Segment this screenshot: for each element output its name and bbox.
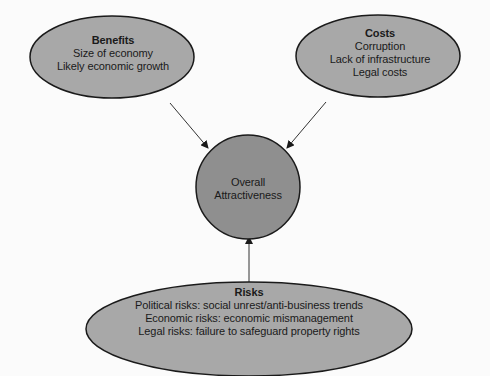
risks-label: Risks Political risks: social unrest/ant… xyxy=(135,286,363,338)
costs-title: Costs xyxy=(330,27,431,40)
risks-line: Legal risks: failure to safeguard proper… xyxy=(135,325,363,338)
benefits-line: Likely economic growth xyxy=(57,60,169,73)
edge-benefits-to-center xyxy=(170,103,208,148)
edge-costs-to-center xyxy=(287,102,326,148)
costs-line: Legal costs xyxy=(330,66,431,79)
benefits-line: Size of economy xyxy=(57,47,169,60)
costs-line: Lack of infrastructure xyxy=(330,53,431,66)
risks-line: Economic risks: economic mismanagement xyxy=(135,312,363,325)
costs-line: Corruption xyxy=(330,40,431,53)
center-line: Overall xyxy=(214,176,282,189)
costs-label: Costs Corruption Lack of infrastructure … xyxy=(330,27,431,79)
center-label: Overall Attractiveness xyxy=(214,176,282,202)
benefits-title: Benefits xyxy=(57,34,169,47)
benefits-label: Benefits Size of economy Likely economic… xyxy=(57,34,169,73)
risks-title: Risks xyxy=(135,286,363,299)
center-line: Attractiveness xyxy=(214,189,282,202)
risks-line: Political risks: social unrest/anti-busi… xyxy=(135,299,363,312)
